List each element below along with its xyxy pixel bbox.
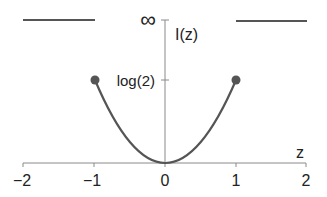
tick-label-0: 0: [161, 172, 170, 189]
infinity-label: ∞: [140, 7, 156, 32]
tick-label-2: 2: [302, 172, 311, 189]
rate-function-chart: −2 −1 0 1 2 z ∞ log(2) I(z): [0, 0, 327, 197]
endpoint-dot-right: [232, 76, 241, 85]
y-axis-label: I(z): [175, 26, 198, 43]
tick-label-neg1: −1: [83, 172, 101, 189]
log2-label: log(2): [117, 72, 155, 89]
x-axis-label: z: [296, 144, 304, 161]
x-tick-labels: −2 −1 0 1 2: [13, 172, 311, 189]
tick-label-neg2: −2: [13, 172, 31, 189]
endpoint-dot-left: [91, 76, 100, 85]
tick-label-1: 1: [232, 172, 241, 189]
